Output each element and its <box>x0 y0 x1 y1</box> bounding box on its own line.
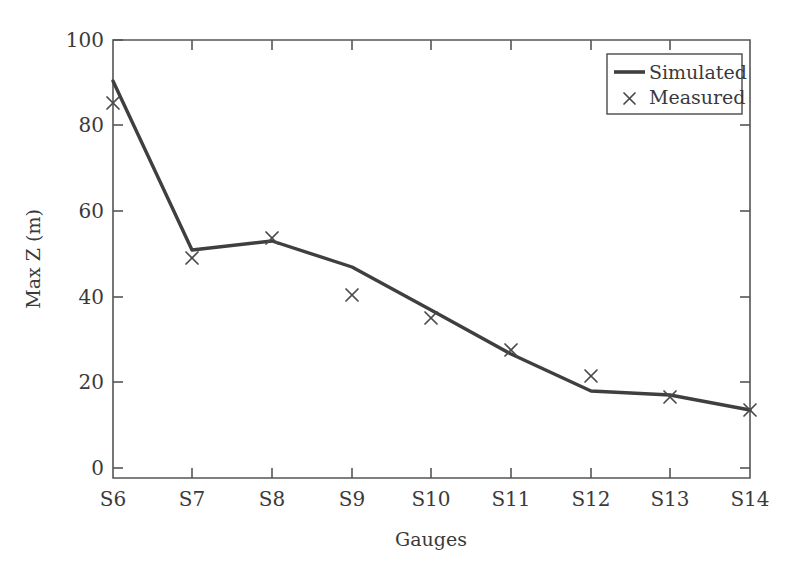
x-tick-label-s8: S8 <box>259 487 285 511</box>
x-tick-label-s13: S13 <box>650 487 689 511</box>
x-tick-label-s6: S6 <box>100 487 126 511</box>
y-tick-label-80: 80 <box>79 113 104 137</box>
x-tick-label-s9: S9 <box>339 487 365 511</box>
y-tick-label-60: 60 <box>79 199 104 223</box>
x-axis-title: Gauges <box>395 528 467 550</box>
y-axis-title: Max Z (m) <box>22 209 44 309</box>
x-tick-label-s7: S7 <box>179 487 205 511</box>
legend-label-simulated: Simulated <box>649 61 747 83</box>
y-tick-label-40: 40 <box>79 285 104 309</box>
x-tick-label-s12: S12 <box>571 487 610 511</box>
y-tick-label-0: 0 <box>91 456 104 480</box>
x-tick-label-s10: S10 <box>411 487 450 511</box>
x-tick-label-s11: S11 <box>491 487 530 511</box>
legend-label-measured: Measured <box>649 86 746 108</box>
line-chart: 0 20 40 60 80 100 S6 S7 <box>0 0 804 581</box>
x-tick-label-s14: S14 <box>730 487 769 511</box>
x-axis-tick-labels: S6 S7 S8 S9 S10 S11 S12 S13 S14 <box>100 487 770 511</box>
y-tick-label-20: 20 <box>79 370 104 394</box>
chart-figure: 0 20 40 60 80 100 S6 S7 <box>0 0 804 581</box>
y-tick-label-100: 100 <box>66 28 104 52</box>
chart-legend[interactable]: Simulated Measured <box>607 54 747 114</box>
